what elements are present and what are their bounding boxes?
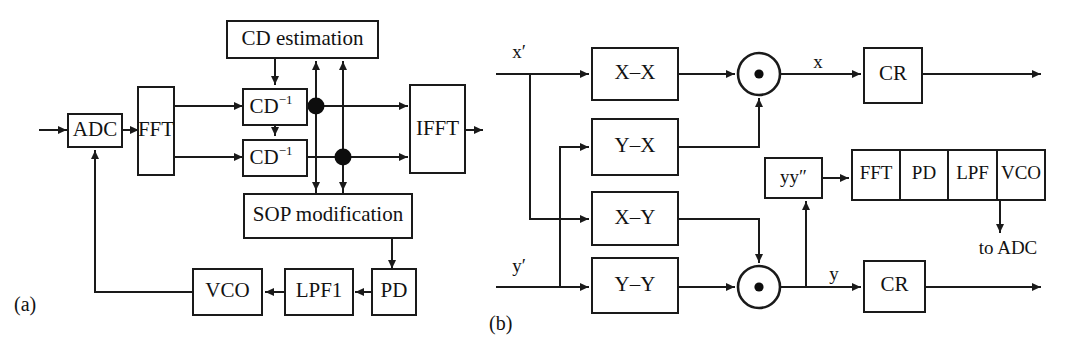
junction-dot-lower: [335, 149, 352, 166]
block-vco-label: VCO: [205, 278, 249, 302]
pll-chain[interactable]: FFT PD LPF VCO: [852, 150, 1045, 200]
diagram-canvas: ADC FFT CD estimation CD−1 CD−1 IFFT SOP…: [0, 0, 1086, 358]
junction-dot-upper: [308, 98, 325, 115]
combiner-top[interactable]: [738, 53, 780, 95]
block-lpf1-label: LPF1: [296, 278, 343, 302]
block-adc-label: ADC: [73, 117, 117, 141]
input-label-x-prime: x′: [512, 41, 526, 62]
block-filter-yy-label: Y–Y: [615, 272, 656, 296]
block-sop-modification-label: SOP modification: [253, 202, 404, 226]
block-filter-xy-label: X–Y: [615, 205, 656, 229]
block-filter-yx-label: Y–X: [615, 133, 656, 157]
block-yy-prime-label: yy″: [780, 166, 807, 187]
block-ifft-label: IFFT: [416, 116, 459, 140]
block-fft-label: FFT: [138, 117, 174, 141]
combiner-bottom[interactable]: [738, 266, 780, 308]
signal-label-y: y: [829, 263, 839, 284]
pll-cell-fft-label: FFT: [860, 162, 893, 183]
panel-a-caption: (a): [14, 293, 36, 316]
block-cr-top-label: CR: [879, 61, 907, 85]
annotation-to-adc: to ADC: [979, 237, 1038, 258]
input-label-y-prime: y′: [512, 255, 526, 276]
pll-cell-vco-label: VCO: [1001, 162, 1041, 183]
block-pd-label: PD: [381, 278, 408, 302]
panel-b: x′ y′ X–X Y–X X–Y Y–Y x y CR CR yy″: [489, 41, 1045, 334]
wire-yx-to-mul-top: [678, 99, 759, 147]
combiner-bottom-center-dot: [754, 282, 763, 291]
wire-xy-to-mul-bottom: [678, 219, 759, 262]
pll-cell-lpf-label: LPF: [956, 162, 989, 183]
block-cd-estimation-label: CD estimation: [242, 26, 364, 50]
figure-block-diagram: ADC FFT CD estimation CD−1 CD−1 IFFT SOP…: [0, 0, 1086, 358]
panel-b-caption: (b): [489, 312, 512, 335]
pll-cell-pd-label: PD: [912, 162, 936, 183]
block-cr-bottom-label: CR: [880, 272, 908, 296]
panel-a: ADC FFT CD estimation CD−1 CD−1 IFFT SOP…: [14, 21, 482, 316]
signal-label-x: x: [813, 51, 823, 72]
block-filter-xx-label: X–X: [615, 60, 656, 84]
combiner-top-center-dot: [754, 69, 763, 78]
wire-yprime-tap-to-yx: [560, 147, 588, 287]
